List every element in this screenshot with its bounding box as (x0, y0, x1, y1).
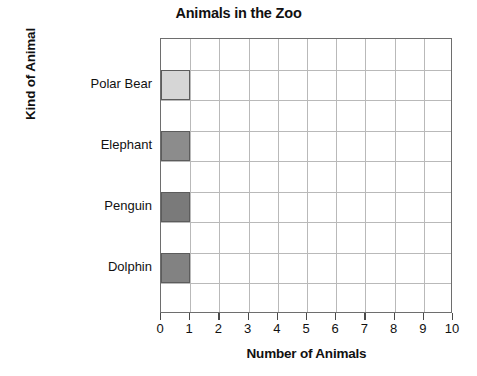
gridline-vertical (336, 39, 337, 312)
x-axis-tick-label: 5 (291, 321, 321, 337)
y-axis-tick-labels: Polar BearElephantPenguinDolphin (0, 38, 152, 313)
chart-title: Animals in the Zoo (0, 4, 477, 22)
y-axis-tick-label: Polar Bear (2, 76, 152, 92)
x-tick-mark (364, 313, 365, 320)
x-axis-tick-label: 2 (203, 321, 233, 337)
x-axis-tick-label: 4 (262, 321, 292, 337)
y-axis-tick-label: Elephant (2, 137, 152, 153)
y-axis-tick-label: Penguin (2, 198, 152, 214)
x-tick-mark (218, 313, 219, 320)
gridline-vertical (219, 39, 220, 312)
x-axis-tick-label: 6 (320, 321, 350, 337)
x-axis-tick-label: 3 (233, 321, 263, 337)
x-axis-tick-label: 0 (145, 321, 175, 337)
x-axis-tick-label: 9 (408, 321, 438, 337)
x-tick-mark (306, 313, 307, 320)
bar-chart: Animals in the Zoo Kind of Animal Polar … (0, 0, 477, 376)
gridline-horizontal (161, 283, 451, 284)
gridline-horizontal (161, 100, 451, 101)
bar (161, 253, 190, 284)
gridline-horizontal (161, 222, 451, 223)
x-axis-tick-label: 7 (349, 321, 379, 337)
x-axis-title: Number of Animals (160, 345, 453, 363)
gridline-horizontal (161, 253, 451, 254)
gridline-vertical (249, 39, 250, 312)
x-axis-ticks: 012345678910 (160, 313, 452, 343)
y-axis-tick-label: Dolphin (2, 259, 152, 275)
x-tick-mark (189, 313, 190, 320)
x-tick-mark (452, 313, 453, 320)
x-axis-tick-label: 10 (437, 321, 467, 337)
gridline-vertical (395, 39, 396, 312)
gridline-vertical (365, 39, 366, 312)
gridline-vertical (424, 39, 425, 312)
gridline-vertical (190, 39, 191, 312)
x-tick-mark (277, 313, 278, 320)
bar (161, 70, 190, 101)
gridline-horizontal (161, 161, 451, 162)
x-tick-mark (248, 313, 249, 320)
gridline-vertical (278, 39, 279, 312)
plot-area (160, 38, 452, 313)
x-axis-tick-label: 8 (379, 321, 409, 337)
bar (161, 192, 190, 223)
bar (161, 131, 190, 162)
gridline-horizontal (161, 192, 451, 193)
gridline-horizontal (161, 70, 451, 71)
x-tick-mark (423, 313, 424, 320)
x-tick-mark (160, 313, 161, 320)
gridline-horizontal (161, 131, 451, 132)
x-tick-mark (335, 313, 336, 320)
x-tick-mark (394, 313, 395, 320)
gridline-vertical (307, 39, 308, 312)
x-axis-tick-label: 1 (174, 321, 204, 337)
